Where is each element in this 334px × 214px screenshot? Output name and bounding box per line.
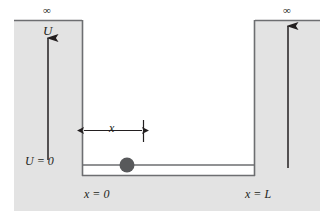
bottom-gray-region	[14, 176, 320, 211]
potential-axis-label: U	[43, 24, 52, 37]
particle-marker	[120, 158, 135, 173]
potential-zero-label: U = 0	[25, 155, 54, 167]
position-x-label: x	[109, 122, 114, 134]
x-length-label: x = L	[245, 188, 271, 200]
x-origin-label: x = 0	[84, 188, 109, 200]
infinite-square-well-figure: ∞ ∞ U U = 0 x = 0 x = L x	[0, 0, 334, 214]
infinity-label-left: ∞	[43, 5, 51, 16]
infinity-label-right: ∞	[283, 5, 291, 16]
